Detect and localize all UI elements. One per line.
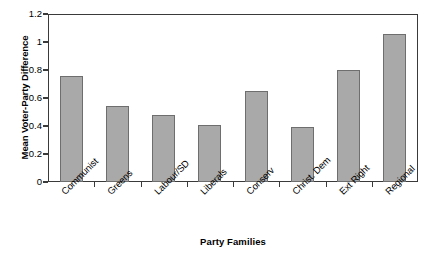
y-tick-label: 0 <box>4 177 48 187</box>
x-tick-label: Liberals <box>198 166 229 197</box>
x-axis-title: Party Families <box>48 236 418 247</box>
x-tick-label: Labour/SD <box>152 158 191 197</box>
x-tick-label: Regional <box>383 163 417 197</box>
x-tick-label: Conserv <box>244 164 276 196</box>
bar-chart-figure: Mean Voter-Party Difference 00.20.40.60.… <box>0 0 431 257</box>
y-tick-label: 1.2 <box>4 9 48 19</box>
y-tick-label: 0.2 <box>4 149 48 159</box>
x-tick-label: Ext Right <box>337 162 371 196</box>
y-tick-label: 0.4 <box>4 121 48 131</box>
x-tick-label: Greens <box>105 167 134 196</box>
x-tick-label: Communist <box>59 156 100 197</box>
x-tick-label: Christ. Dem <box>290 154 332 196</box>
y-tick-label: 1 <box>4 37 48 47</box>
y-axis-ticks: 00.20.40.60.811.2 <box>0 0 48 257</box>
x-axis-labels: CommunistGreensLabour/SDLiberalsConservC… <box>48 0 418 257</box>
y-tick-label: 0.8 <box>4 65 48 75</box>
y-tick-label: 0.6 <box>4 93 48 103</box>
